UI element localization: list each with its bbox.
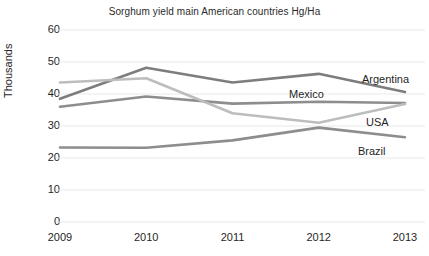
series-lines <box>60 68 405 148</box>
line-chart: Sorghum yield main American countries Hg… <box>0 0 429 256</box>
x-axis-tick-label: 2013 <box>381 232 429 243</box>
x-axis-tick-label: 2009 <box>36 232 84 243</box>
series-label-usa: USA <box>366 116 389 128</box>
series-label-mexico: Mexico <box>289 88 324 100</box>
series-label-brazil: Brazil <box>358 145 386 157</box>
plot-area <box>0 0 429 256</box>
series-line-mexico <box>60 97 405 107</box>
series-label-argentina: Argentina <box>362 73 409 85</box>
x-axis-tick-label: 2010 <box>122 232 170 243</box>
x-axis-tick-label: 2012 <box>295 232 343 243</box>
series-line-brazil <box>60 128 405 148</box>
x-axis-tick-label: 2011 <box>209 232 257 243</box>
